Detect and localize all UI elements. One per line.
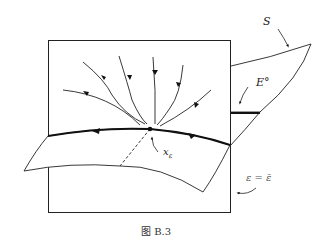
surface-epsilon [24,129,230,192]
label-x-eps: xε [163,147,172,160]
figure-caption: 图 B.3 [141,227,171,237]
surface-S [231,44,311,112]
flow-lines [63,56,211,126]
label-epsilon-eq: ε = ε̄ [246,173,271,183]
diagram-canvas [0,0,329,245]
equilibrium-point [148,127,153,132]
S-pointer-icon [278,29,288,46]
label-x-sub: ε [169,152,173,160]
label-E0: E° [256,77,270,88]
epsilon-pointer-icon [238,188,256,193]
label-S: S [263,16,271,27]
